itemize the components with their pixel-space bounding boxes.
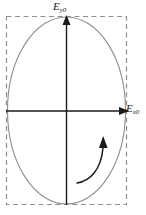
- vertical-axis-label-symbol: E: [53, 0, 60, 12]
- vertical-axis-label-subscript: y0: [60, 6, 67, 14]
- rotation-direction-arrowhead: [99, 136, 108, 148]
- vertical-axis-label: Ey0: [53, 1, 66, 12]
- diagram-canvas: [0, 0, 146, 215]
- horizontal-axis-label-symbol: E: [126, 102, 133, 114]
- polarization-ellipse-figure: Ey0 Ex0: [0, 0, 146, 215]
- horizontal-axis-label-subscript: x0: [133, 108, 140, 116]
- rotation-direction-arc: [77, 148, 103, 183]
- horizontal-axis-label: Ex0: [126, 103, 139, 114]
